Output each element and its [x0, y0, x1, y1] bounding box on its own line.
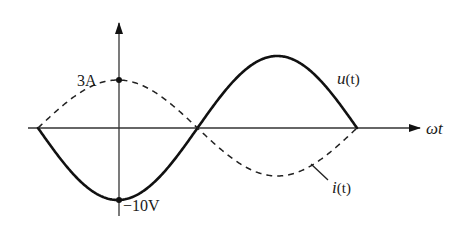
current-peak-label: 3A	[77, 72, 97, 89]
voltage-series-label: u(t)	[337, 69, 360, 88]
current-peak-dot	[116, 77, 122, 83]
x-axis-label: ωt	[426, 119, 444, 138]
voltage-min-dot	[116, 197, 122, 203]
current-series-label: i(t)	[332, 178, 351, 197]
voltage-min-label: −10V	[123, 197, 160, 214]
waveform-diagram: 3A −10V ωt u(t) i(t)	[0, 0, 462, 225]
current-leader-line	[311, 164, 328, 180]
